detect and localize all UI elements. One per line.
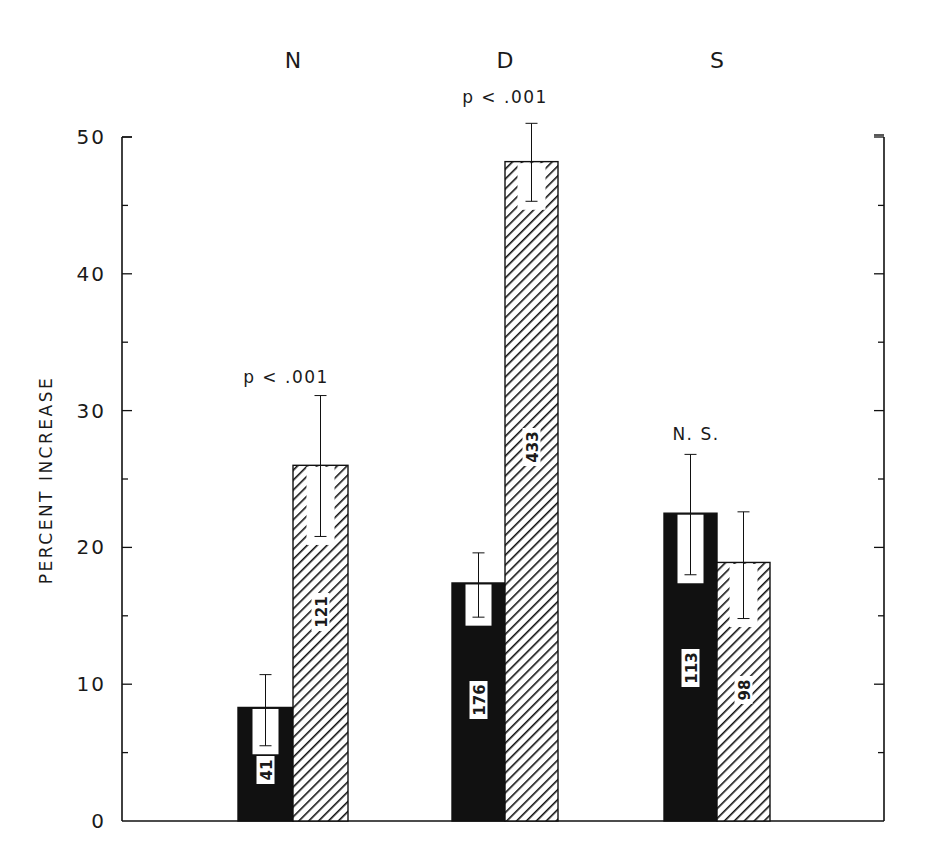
y-tick-label: 30	[77, 399, 106, 423]
bar-d-hatched	[505, 162, 558, 821]
n-label: 41	[258, 760, 276, 781]
y-tick-label: 20	[77, 535, 106, 559]
significance-annotation: N. S.	[672, 424, 719, 444]
n-label: 121	[313, 596, 331, 627]
y-tick-label: 10	[77, 672, 106, 696]
bar-chart: 01020304050PERCENT INCREASEN41121p < .00…	[0, 0, 929, 860]
category-label-n: N	[285, 48, 301, 73]
n-label: 176	[471, 684, 489, 715]
n-label: 113	[683, 652, 701, 683]
bars	[238, 123, 770, 821]
y-tick-label: 40	[77, 262, 106, 286]
n-label: 98	[736, 680, 754, 701]
significance-annotation: p < .001	[243, 367, 329, 387]
category-label-d: D	[497, 48, 514, 73]
y-axis-title: PERCENT INCREASE	[36, 376, 56, 584]
n-label: 433	[524, 431, 542, 462]
significance-annotation: p < .001	[462, 87, 548, 107]
category-label-s: S	[710, 48, 724, 73]
labels: 01020304050PERCENT INCREASEN41121p < .00…	[36, 48, 754, 833]
y-tick-label: 50	[77, 125, 106, 149]
y-tick-label: 0	[91, 809, 106, 833]
